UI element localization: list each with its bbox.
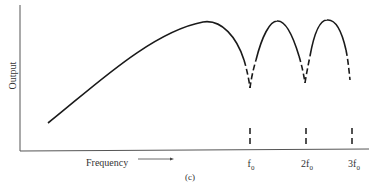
tick-label-3f0: 3f0 xyxy=(348,158,360,172)
output-curve-arch-3 xyxy=(310,20,346,56)
output-curve-notch-3f0 xyxy=(346,50,350,80)
tick-label-f0: f0 xyxy=(248,158,255,172)
chart-plot xyxy=(0,0,375,189)
figure-caption: (c) xyxy=(185,172,195,182)
tick-label-2f0: 2f0 xyxy=(301,158,313,172)
output-curve-notch-2f0-right xyxy=(305,56,310,83)
x-axis xyxy=(20,149,369,151)
x-axis-label: Frequency xyxy=(86,157,128,168)
output-curve-notch-2f0-left xyxy=(299,56,305,83)
y-axis-label: Output xyxy=(7,58,18,94)
output-curve-notch-f0-left xyxy=(244,60,250,88)
output-curve-notch-f0-right xyxy=(250,60,256,88)
output-curve-arch-2 xyxy=(256,21,299,60)
arrow-right-icon xyxy=(138,158,174,161)
output-curve-rise xyxy=(48,22,244,123)
